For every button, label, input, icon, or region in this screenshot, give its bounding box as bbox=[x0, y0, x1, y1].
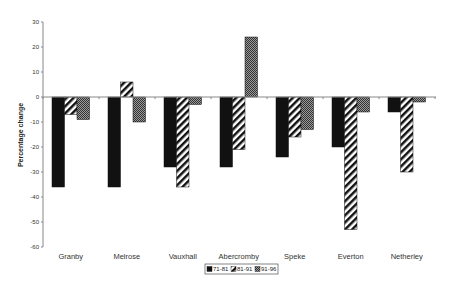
y-tick-label: -60 bbox=[30, 244, 39, 250]
bar-abercromby-71-81 bbox=[220, 97, 233, 167]
bar-everton-81-91 bbox=[345, 97, 358, 230]
bar-granby-81-91 bbox=[65, 97, 78, 115]
legend-swatch bbox=[207, 267, 212, 272]
bar-granby-91-96 bbox=[77, 97, 90, 120]
y-tick-label: -50 bbox=[30, 219, 39, 225]
y-axis: 3020100-10-20-30-40-50-60 bbox=[30, 19, 43, 250]
bar-everton-91-96 bbox=[357, 97, 370, 112]
category-label: Speke bbox=[284, 252, 305, 261]
category-labels: GranbyMelroseVauxhallAbercrombySpekeEver… bbox=[58, 252, 423, 261]
bar-abercromby-81-91 bbox=[233, 97, 246, 150]
bar-melrose-81-91 bbox=[121, 82, 134, 97]
category-label: Netherley bbox=[391, 252, 423, 261]
bar-melrose-91-96 bbox=[133, 97, 146, 122]
y-tick-label: -20 bbox=[30, 144, 39, 150]
legend-swatch bbox=[231, 267, 236, 272]
category-label: Everton bbox=[338, 252, 364, 261]
bars bbox=[52, 37, 426, 230]
y-tick-label: 10 bbox=[32, 69, 39, 75]
y-tick-label: 0 bbox=[36, 94, 40, 100]
legend-label: 91-96 bbox=[261, 266, 277, 272]
bar-granby-71-81 bbox=[52, 97, 65, 187]
bar-netherley-91-96 bbox=[413, 97, 426, 102]
bar-abercromby-91-96 bbox=[245, 37, 258, 97]
category-label: Melrose bbox=[113, 252, 140, 261]
category-label: Granby bbox=[58, 252, 83, 261]
legend-label: 71-81 bbox=[213, 266, 229, 272]
bar-vauxhall-81-91 bbox=[177, 97, 190, 187]
bar-speke-91-96 bbox=[301, 97, 314, 130]
y-tick-label: -40 bbox=[30, 194, 39, 200]
y-tick-label: -30 bbox=[30, 169, 39, 175]
bar-netherley-71-81 bbox=[388, 97, 401, 112]
bar-vauxhall-71-81 bbox=[164, 97, 177, 167]
legend-label: 81-91 bbox=[237, 266, 253, 272]
y-tick-label: 30 bbox=[32, 19, 39, 25]
y-tick-label: 20 bbox=[32, 44, 39, 50]
y-tick-label: -10 bbox=[30, 119, 39, 125]
bar-speke-81-91 bbox=[289, 97, 302, 137]
bar-melrose-71-81 bbox=[108, 97, 121, 187]
bar-chart: 3020100-10-20-30-40-50-60 GranbyMelroseV… bbox=[0, 0, 456, 292]
bar-vauxhall-91-96 bbox=[189, 97, 202, 105]
legend: 71-8181-9191-96 bbox=[205, 264, 278, 274]
bar-everton-71-81 bbox=[332, 97, 345, 147]
legend-swatch bbox=[255, 267, 260, 272]
category-label: Vauxhall bbox=[169, 252, 198, 261]
y-axis-title: Percentage change bbox=[17, 103, 25, 167]
bar-speke-71-81 bbox=[276, 97, 289, 157]
category-label: Abercromby bbox=[219, 252, 260, 261]
bar-netherley-81-91 bbox=[401, 97, 414, 172]
